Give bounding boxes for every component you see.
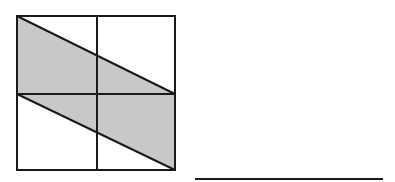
geometry-figure [0,0,395,182]
answer-text [195,160,383,176]
